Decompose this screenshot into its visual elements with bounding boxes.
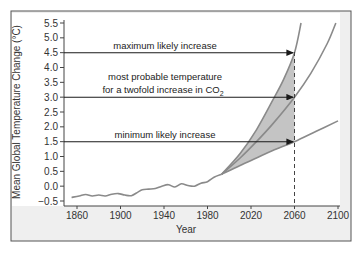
y-tick-label: −0.5 bbox=[38, 196, 58, 207]
y-tick-label: 0.5 bbox=[44, 166, 58, 177]
y-tick-label: 4.5 bbox=[44, 47, 58, 58]
x-tick-label: 1860 bbox=[66, 210, 89, 221]
x-tick-label: 1940 bbox=[153, 210, 176, 221]
x-tick-label: 1980 bbox=[196, 210, 219, 221]
y-tick-label: 1.5 bbox=[44, 136, 58, 147]
x-tick-label: 2020 bbox=[240, 210, 263, 221]
y-tick-label: 5.0 bbox=[44, 32, 58, 43]
y-tick-label: 3.0 bbox=[44, 92, 58, 103]
x-tick-label: 1900 bbox=[109, 210, 132, 221]
x-tick-label: 2100 bbox=[327, 210, 350, 221]
annotation-mid-line1: most probable temperature bbox=[108, 71, 222, 82]
x-axis-title: Year bbox=[176, 224, 197, 235]
annotation-min: minimum likely increase bbox=[115, 129, 216, 140]
y-tick-label: 2.5 bbox=[44, 107, 58, 118]
y-tick-label: 0.0 bbox=[44, 181, 58, 192]
x-tick-label: 2060 bbox=[283, 210, 306, 221]
y-tick-label: 1.0 bbox=[44, 151, 58, 162]
y-tick-label: 4.0 bbox=[44, 62, 58, 73]
annotation-max: maximum likely increase bbox=[113, 40, 216, 51]
y-tick-label: 3.5 bbox=[44, 77, 58, 88]
y-tick-label: 5.5 bbox=[44, 18, 58, 29]
y-axis-title: Mean Global Temperature Change (°C) bbox=[11, 25, 22, 199]
y-tick-label: 2.0 bbox=[44, 121, 58, 132]
temperature-projection-chart: 5.55.04.54.03.53.02.52.01.51.00.50.0−0.5… bbox=[0, 0, 361, 253]
